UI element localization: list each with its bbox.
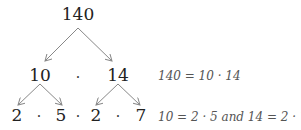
- leaf-7: 7: [136, 107, 147, 124]
- multiply-dot: ·: [76, 70, 80, 84]
- multiply-dot: ·: [37, 109, 41, 123]
- equation-level2: 10 = 2 · 5 and 14 = 2 · 7: [158, 110, 301, 124]
- leaf-5: 5: [56, 107, 67, 124]
- leaf-2b: 2: [91, 107, 102, 124]
- equation-level1: 140 = 10 · 14: [158, 69, 241, 83]
- node-14: 14: [107, 67, 129, 84]
- multiply-dot: ·: [116, 109, 120, 123]
- leaf-2a: 2: [12, 107, 23, 124]
- factor-tree-diagram: 140 10 · 14 2 · 5 · 2 · 7 140 = 10 · 14 …: [0, 0, 301, 130]
- node-10: 10: [29, 67, 51, 84]
- multiply-dot: ·: [76, 109, 80, 123]
- root-node: 140: [62, 6, 94, 23]
